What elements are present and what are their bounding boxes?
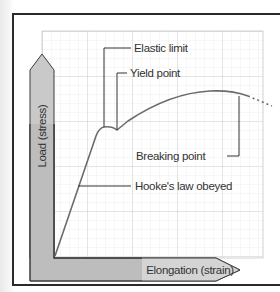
breaking-point-label: Breaking point	[136, 150, 206, 162]
stress-strain-diagram: Load (stress) Elongation (strain) Elasti…	[0, 0, 280, 292]
y-axis-label: Load (stress)	[36, 104, 48, 168]
hookes-law-label: Hooke's law obeyed	[135, 180, 232, 192]
yield-point-label: Yield point	[130, 67, 181, 79]
x-axis-label: Elongation (strain)	[146, 264, 234, 276]
elastic-limit-label: Elastic limit	[134, 42, 189, 54]
graph-grid	[42, 31, 263, 258]
